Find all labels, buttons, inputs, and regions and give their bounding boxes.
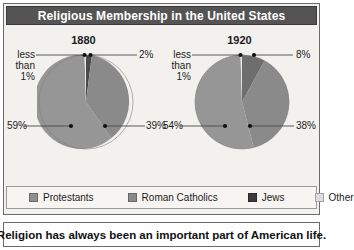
page-title: Religious Membership in the United State…	[38, 9, 285, 23]
legend-item-roman-catholics[interactable]: Roman Catholics	[128, 192, 218, 203]
callout-protestants-1880: 59%	[7, 120, 27, 131]
callout-jews-1880: less than 1%	[8, 49, 35, 82]
callout-catholics-1920: 38%	[296, 120, 316, 131]
chart-legend: Protestants Roman Catholics Jews Other	[6, 186, 317, 209]
callout-jews-line1-1880: less	[8, 49, 35, 60]
callout-jews-line2-1920: than	[164, 60, 191, 71]
callout-jews-line1-1920: less	[164, 49, 191, 60]
pie-chart-1920: 1920	[162, 28, 317, 183]
callout-jews-line3-1920: 1%	[164, 71, 191, 82]
legend-item-protestants[interactable]: Protestants	[29, 192, 94, 203]
callout-jews-1920: less than 1%	[164, 49, 191, 82]
legend-swatch-other	[315, 193, 324, 202]
legend-label-roman-catholics: Roman Catholics	[142, 192, 218, 203]
chart-year-label-1920: 1920	[162, 34, 317, 46]
callout-other-1880: 2%	[139, 49, 153, 60]
caption-text: Religion has always been an important pa…	[0, 229, 326, 241]
pie-svg-1920	[193, 53, 291, 151]
legend-label-other: Other	[329, 192, 354, 203]
pie-svg-1880	[37, 53, 135, 151]
pie-graphic-1880	[37, 53, 135, 151]
legend-label-jews: Jews	[262, 192, 285, 203]
callout-jews-line3-1880: 1%	[8, 71, 35, 82]
pie-chart-1880: 1880	[6, 28, 161, 183]
legend-swatch-roman-catholics	[128, 193, 137, 202]
legend-item-other[interactable]: Other	[315, 192, 354, 203]
chart-title-bar: Religious Membership in the United State…	[6, 6, 317, 25]
legend-item-jews[interactable]: Jews	[248, 192, 285, 203]
plot-area: 1880	[6, 28, 317, 183]
legend-swatch-protestants	[29, 193, 38, 202]
legend-label-protestants: Protestants	[43, 192, 94, 203]
callout-other-1920: 8%	[296, 49, 310, 60]
callout-jews-line2-1880: than	[8, 60, 35, 71]
legend-swatch-jews	[248, 193, 257, 202]
callout-protestants-1920: 54%	[163, 120, 183, 131]
chart-year-label-1880: 1880	[6, 34, 161, 46]
caption-box: Religion has always been an important pa…	[3, 222, 320, 247]
pie-graphic-1920	[193, 53, 291, 151]
